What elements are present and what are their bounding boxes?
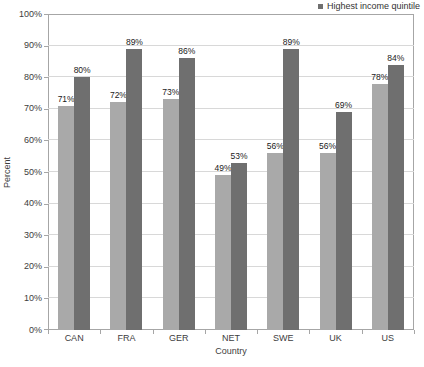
- y-tick-label: 40%: [0, 198, 42, 208]
- bar-value-label: 80%: [67, 65, 97, 75]
- bar-us-series1: [372, 84, 388, 330]
- y-tick-label: 20%: [0, 261, 42, 271]
- bar-uk-series2: [336, 112, 352, 330]
- y-tick-label: 80%: [0, 72, 42, 82]
- legend-marker-icon: [318, 4, 323, 9]
- y-tick-label: 90%: [0, 40, 42, 50]
- bar-ger-series1: [163, 99, 179, 330]
- y-tick-label: 0%: [0, 325, 42, 335]
- x-axis-title: Country: [48, 346, 414, 356]
- x-tick-label-fra: FRA: [100, 333, 152, 343]
- gridline: [48, 108, 414, 109]
- x-tick-label-ger: GER: [153, 333, 205, 343]
- gridline: [48, 45, 414, 46]
- bar-chart: Highest income quintile Percent 0%10%20%…: [0, 0, 424, 367]
- bar-fra-series1: [110, 102, 126, 330]
- x-tick-label-net: NET: [205, 333, 257, 343]
- bar-fra-series2: [126, 49, 142, 330]
- y-tick-label: 100%: [0, 9, 42, 19]
- bar-swe-series2: [283, 49, 299, 330]
- gridline: [48, 139, 414, 140]
- bar-can-series2: [74, 77, 90, 330]
- x-axis-labels: CANFRAGERNETSWEUKUS: [48, 333, 414, 345]
- bar-uk-series1: [320, 153, 336, 330]
- legend: Highest income quintile: [318, 1, 420, 11]
- x-tick-mark: [414, 330, 415, 334]
- x-tick-label-can: CAN: [48, 333, 100, 343]
- plot-area: 71%80%72%89%73%86%49%53%56%89%56%69%78%8…: [48, 14, 414, 330]
- y-tick-label: 30%: [0, 230, 42, 240]
- y-tick-label: 10%: [0, 293, 42, 303]
- gridline: [48, 76, 414, 77]
- x-tick-label-swe: SWE: [257, 333, 309, 343]
- bar-value-label: 86%: [172, 46, 202, 56]
- x-tick-label-us: US: [362, 333, 414, 343]
- bar-ger-series2: [179, 58, 195, 330]
- bar-value-label: 84%: [381, 53, 411, 63]
- bar-value-label: 89%: [119, 37, 149, 47]
- bar-can-series1: [58, 106, 74, 330]
- y-tick-label: 50%: [0, 167, 42, 177]
- bar-net-series1: [215, 175, 231, 330]
- x-tick-label-uk: UK: [309, 333, 361, 343]
- bar-us-series2: [388, 65, 404, 330]
- legend-label: Highest income quintile: [327, 1, 420, 11]
- bar-value-label: 53%: [224, 151, 254, 161]
- y-tick-label: 70%: [0, 103, 42, 113]
- bar-value-label: 89%: [276, 37, 306, 47]
- bar-swe-series1: [267, 153, 283, 330]
- y-tick-label: 60%: [0, 135, 42, 145]
- bar-net-series2: [231, 163, 247, 330]
- bar-value-label: 69%: [329, 100, 359, 110]
- y-axis-labels: 0%10%20%30%40%50%60%70%80%90%100%: [0, 14, 42, 330]
